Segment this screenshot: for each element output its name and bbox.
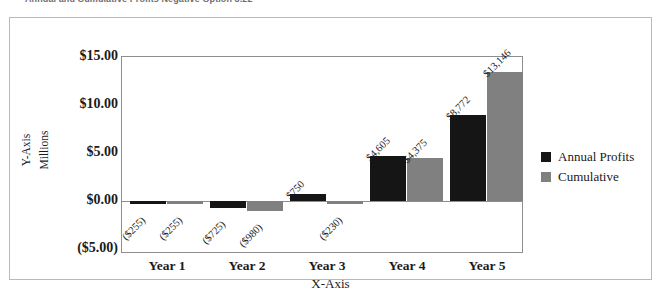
bar-cumulative-year2[interactable]: [247, 201, 283, 211]
bar-cumulative-year5[interactable]: [487, 72, 523, 201]
legend-item-cumulative[interactable]: Cumulative: [541, 169, 634, 185]
bar-annual-year4[interactable]: [370, 156, 406, 201]
value-label-annual-year1: ($255): [121, 215, 148, 242]
x-axis-title: X-Axis: [10, 276, 651, 292]
y-tick-label: ($5.00): [40, 241, 118, 255]
y-tick-label: $15.00: [40, 49, 118, 63]
legend-swatch-icon: [541, 152, 551, 162]
y-axis-tick-labels: $15.00 $10.00 $5.00 $0.00 ($5.00): [36, 56, 118, 253]
legend-label: Annual Profits: [558, 149, 634, 165]
legend-label: Cumulative: [558, 169, 619, 185]
chart-frame: Y-Axis Millions $15.00 $10.00 $5.00 $0.0…: [9, 17, 652, 280]
legend-item-annual-profits[interactable]: Annual Profits: [541, 149, 634, 165]
x-category-year5: Year 5: [439, 258, 535, 274]
legend: Annual Profits Cumulative: [541, 149, 634, 189]
bar-annual-year1[interactable]: [130, 201, 166, 204]
legend-swatch-icon: [541, 172, 551, 182]
bar-cumulative-year4[interactable]: [407, 158, 443, 201]
plot-area: ($255) ($255) ($725) ($980) $750 ($230) …: [121, 56, 523, 253]
bar-cumulative-year1[interactable]: [167, 201, 203, 204]
value-label-cumulative-year1: ($255): [158, 215, 185, 242]
value-label-annual-year2: ($725): [201, 219, 228, 246]
document-title: Annual and Cumulative Profits Negative O…: [25, 0, 253, 4]
y-tick-label: $10.00: [40, 97, 118, 111]
y-tick-label: $0.00: [40, 193, 118, 207]
value-label-cumulative-year3: ($230): [318, 215, 345, 242]
y-axis-title-line1: Y-Axis: [20, 134, 32, 167]
y-tick-label: $5.00: [40, 145, 118, 159]
bar-cumulative-year3[interactable]: [327, 201, 363, 204]
bar-annual-year5[interactable]: [450, 115, 486, 201]
value-label-cumulative-year2: ($980): [238, 222, 265, 249]
bar-annual-year2[interactable]: [210, 201, 246, 208]
